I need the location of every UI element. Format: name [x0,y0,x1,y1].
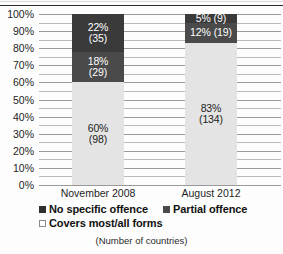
y-axis-tick-label: 0% [0,180,34,190]
legend-item-covers-most-all-forms: Covers most/all forms [39,217,162,229]
bar-segment-label: 60% (98) [88,123,109,145]
y-axis-tick-label: 30% [0,129,34,139]
legend-item-partial-offence: Partial offence [163,203,247,215]
page-rule-light [0,1,283,2]
legend-label: Covers most/all forms [49,217,162,229]
bar-segment: 60% (98) [72,82,124,185]
y-axis-tick-label: 70% [0,60,34,70]
bar-segment: 22% (35) [72,14,124,52]
bar-segment: 5% (9) [185,14,237,23]
y-axis-tick-label: 20% [0,146,34,156]
plot-area: 60% (98)18% (29)22% (35) 83% (134)12% (1… [39,14,281,185]
chart-figure: 100%90%80%70%60%50%40%30%20%10%0% 60% (9… [0,0,283,254]
legend-label: No specific offence [49,203,148,215]
legend-swatch-icon [39,206,46,213]
legend-swatch-icon [39,220,46,227]
y-axis-tick-label: 50% [0,95,34,105]
x-axis-label-0: November 2008 [43,187,153,199]
y-axis-tick-label: 100% [0,9,34,19]
bar-segment-label: 12% (19) [190,27,232,38]
x-axis-label-1: August 2012 [156,187,266,199]
y-axis-tick-label: 90% [0,26,34,36]
bar-segment: 12% (19) [185,23,237,44]
x-axis-labels: November 2008 August 2012 [39,187,281,203]
bar-segment: 18% (29) [72,52,124,83]
legend-swatch-icon [163,206,170,213]
bar-segment-label: 18% (29) [88,56,109,78]
legend-label: Partial offence [173,203,247,215]
page-rule [0,5,283,6]
bar-segment-label: 5% (9) [196,13,226,24]
y-axis-labels: 100%90%80%70%60%50%40%30%20%10%0% [0,14,36,185]
legend-item-no-specific-offence: No specific offence [39,203,148,215]
y-axis-tick-label: 10% [0,163,34,173]
y-axis-tick-label: 80% [0,43,34,53]
bar-segment: 83% (134) [185,43,237,185]
gridline [39,185,281,186]
y-axis-tick-label: 40% [0,112,34,122]
chart-caption: (Number of countries) [0,235,283,246]
y-axis-tick-label: 60% [0,77,34,87]
bar-segment-label: 22% (35) [88,22,109,44]
bar-segment-label: 83% (134) [199,103,223,125]
chart-legend: No specific offence Partial offence Cove… [0,203,283,233]
